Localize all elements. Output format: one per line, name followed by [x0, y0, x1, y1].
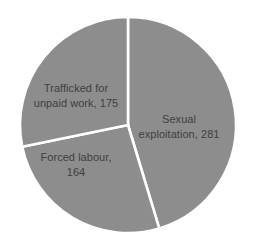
pie-chart-canvas [0, 0, 253, 247]
pie-slice-3 [20, 17, 128, 147]
pie-chart: Sexualexploitation, 281Forced labour,164… [0, 0, 253, 247]
pie-slice-group [20, 17, 236, 233]
